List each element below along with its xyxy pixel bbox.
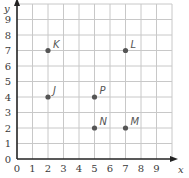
- x-tick-label: 4: [76, 163, 82, 174]
- y-tick-label: 5: [5, 76, 11, 87]
- point-label: M: [131, 116, 140, 127]
- point-label: L: [131, 39, 137, 50]
- point-marker-icon: [123, 48, 128, 53]
- x-tick-label: 0: [14, 163, 20, 174]
- x-tick-label: 3: [60, 163, 66, 174]
- x-axis-arrow-icon: [170, 156, 178, 162]
- point-label: J: [51, 85, 56, 96]
- y-tick-labels: 0123456789: [5, 14, 11, 165]
- y-axis-label: y: [3, 3, 10, 14]
- y-tick-label: 7: [5, 45, 11, 56]
- y-tick-label: 9: [5, 14, 11, 25]
- point-marker-icon: [92, 94, 97, 99]
- y-tick-label: 1: [5, 138, 11, 149]
- grid-lines: [17, 4, 172, 159]
- y-tick-label: 6: [5, 61, 11, 72]
- x-tick-label: 2: [45, 163, 51, 174]
- x-tick-labels: 0123456789: [14, 163, 160, 174]
- x-tick-label: 5: [91, 163, 97, 174]
- x-tick-label: 8: [138, 163, 144, 174]
- y-axis-arrow-icon: [14, 0, 20, 6]
- y-tick-label: 4: [5, 92, 11, 103]
- point-label: P: [100, 85, 107, 96]
- y-tick-label: 3: [5, 107, 11, 118]
- point-marker-icon: [92, 125, 97, 130]
- coordinate-grid-chart: 0123456789 0123456789 x y KLJPNM: [0, 0, 189, 178]
- x-tick-label: 7: [122, 163, 128, 174]
- y-tick-label: 2: [5, 123, 11, 134]
- x-tick-label: 9: [153, 163, 159, 174]
- x-tick-label: 1: [29, 163, 35, 174]
- y-tick-label: 8: [5, 30, 11, 41]
- point-marker-icon: [45, 94, 50, 99]
- y-tick-label: 0: [5, 154, 11, 165]
- point-marker-icon: [45, 48, 50, 53]
- point-marker-icon: [123, 125, 128, 130]
- x-tick-label: 6: [107, 163, 113, 174]
- x-axis-label: x: [178, 164, 184, 175]
- point-label: N: [100, 116, 108, 127]
- point-label: K: [53, 39, 61, 50]
